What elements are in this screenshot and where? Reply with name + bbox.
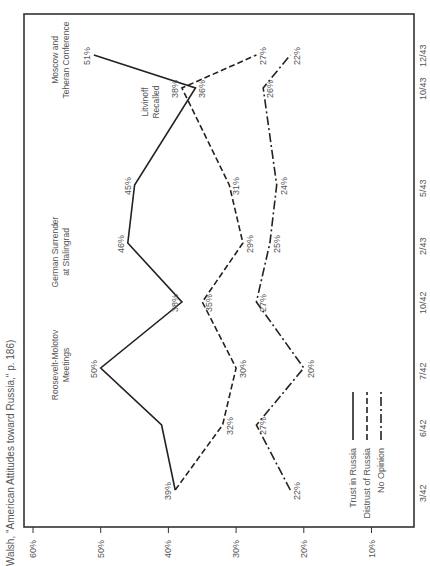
data-point-label: 20% [306,360,316,378]
legend-label-trust: Trust in Russia [348,448,358,508]
date-tick-label: 6/42 [418,419,428,437]
data-point-label: 36% [197,80,207,98]
data-point-label: 38% [170,294,180,312]
line-chart: Walsh, "American Attitudes toward Russia… [0,0,430,566]
event-label-roosevelt: Roosevelt-MolotovMeetings [50,329,71,400]
percent-tick-label: 60% [28,540,38,558]
data-point-label: 27% [258,417,268,435]
date-tick-label: 10/43 [418,77,428,100]
event-annotations: Roosevelt-MolotovMeetingsGerman Surrende… [50,21,161,400]
event-label-moscow: Moscow andTeheran Conference [50,21,71,98]
series-dashed-line [175,55,256,490]
percent-tick-label: 10% [367,540,377,558]
date-tick-label: 3/42 [418,484,428,502]
data-point-label: 24% [279,177,289,195]
event-label-litvinoff: LitvinoffRecalled [140,85,161,118]
source-caption: Walsh, "American Attitudes toward Russia… [5,340,16,566]
event-label-stalingrad: German Surrenderat Stalingrad [50,216,71,287]
data-point-label: 45% [123,177,133,195]
data-point-label: 31% [231,177,241,195]
data-point-label: 30% [238,360,248,378]
date-tick-label: 2/43 [418,237,428,255]
date-tick-label: 12/43 [418,44,428,67]
percent-tick-label: 40% [163,540,173,558]
data-point-label: 22% [292,482,302,500]
date-tick-label: 7/42 [418,362,428,380]
data-point-label: 50% [89,360,99,378]
data-point-label: 22% [292,47,302,65]
data-point-label: 27% [258,294,268,312]
data-point-label: 27% [258,47,268,65]
data-point-label: 29% [245,235,255,253]
data-point-label: 32% [225,417,235,435]
percent-tick-label: 30% [231,540,241,558]
data-point-label: 38% [170,80,180,98]
date-axis: 3/426/427/4210/422/435/4310/4312/43 [418,44,428,502]
date-tick-label: 10/42 [418,291,428,314]
data-point-label: 51% [82,47,92,65]
percent-tick-label: 50% [96,540,106,558]
series-solid-line [94,55,196,490]
data-point-label: 39% [163,482,173,500]
date-tick-label: 5/43 [418,179,428,197]
data-point-label: 26% [265,80,275,98]
percent-axis: 60%50%40%30%20%10% [28,527,377,558]
legend-label-distrust: Distrust of Russia [362,448,372,519]
data-point-label: 25% [272,235,282,253]
data-point-label: 46% [116,235,126,253]
data-series: 39%50%38%46%45%36%51%32%30%35%29%31%38%2… [82,47,316,500]
legend-label-no_opinion: No Opinion [376,448,386,493]
percent-tick-label: 20% [299,540,309,558]
legend: Trust in RussiaDistrust of RussiaNo Opin… [348,392,386,519]
data-point-label: 35% [204,294,214,312]
